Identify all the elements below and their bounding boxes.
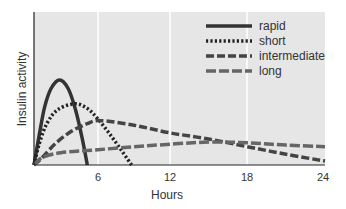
legend-label-intermediate: intermediate (259, 49, 325, 63)
insulin-activity-chart: 6 12 18 24 Hours Insulin activity rapid … (0, 0, 346, 209)
legend-label-short: short (259, 34, 286, 48)
legend-label-long: long (259, 64, 282, 78)
x-tick-18: 18 (241, 171, 253, 183)
x-tick-12: 12 (164, 171, 176, 183)
x-tick-labels: 6 12 18 24 (95, 171, 329, 183)
legend-label-rapid: rapid (259, 19, 286, 33)
y-axis-label: Insulin activity (15, 52, 29, 127)
x-tick-6: 6 (95, 171, 101, 183)
x-tick-24: 24 (317, 171, 329, 183)
x-axis-label: Hours (151, 188, 183, 202)
